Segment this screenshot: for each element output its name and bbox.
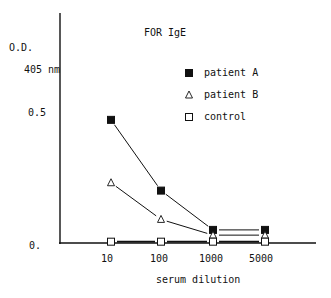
y-tick-0-5: 0.5 (28, 107, 46, 119)
data-point-patient-A (158, 187, 165, 194)
y-tick-0: 0. (29, 240, 41, 252)
data-point-control (158, 238, 165, 245)
legend-markers (186, 70, 193, 121)
series-layer (108, 116, 269, 245)
legend-marker-patient-B-icon (186, 91, 193, 98)
series-line-segment (166, 194, 208, 226)
data-point-control (108, 238, 115, 245)
legend-marker-control-icon (186, 114, 193, 121)
data-point-control (210, 238, 217, 245)
data-point-patient-B (158, 215, 165, 222)
x-tick-100: 100 (150, 253, 168, 265)
series-line-segment (114, 125, 157, 186)
legend-marker-patient-A-icon (186, 70, 193, 77)
chart-title: FOR IgE (144, 27, 186, 39)
x-tick-10: 10 (101, 253, 113, 265)
data-point-patient-B (108, 179, 115, 186)
legend-label-patient-a: patient A (204, 67, 258, 79)
legend-label-patient-b: patient B (204, 89, 258, 101)
data-point-patient-A (108, 116, 115, 123)
x-tick-1000: 1000 (199, 253, 223, 265)
series-line-segment (116, 186, 156, 216)
y-axis-label-wavelength: 405 nm (24, 64, 60, 76)
data-point-control (262, 238, 269, 245)
series-line-segment (167, 221, 208, 233)
x-tick-5000: 5000 (249, 253, 273, 265)
y-axis-label-od: O.D. (9, 42, 33, 54)
x-axis-label: serum dilution (156, 274, 240, 286)
legend-label-control: control (204, 111, 246, 123)
